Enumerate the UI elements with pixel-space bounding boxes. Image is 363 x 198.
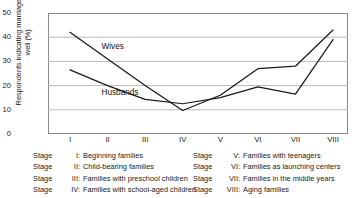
legend-stage-description: Child-bearing families [83,161,154,172]
legend-stage-numeral: VI: [218,161,243,172]
y-tick-label: 40 [0,33,11,41]
legend-stage-description: Families with teenagers [243,150,321,161]
legend-stage-numeral: III: [58,173,83,184]
legend-stage-word: Stage [33,150,58,161]
legend-stage-word: Stage [193,161,218,172]
x-tick-label: III [130,136,160,144]
legend-row: StageVI:Families as launching centers [193,161,340,172]
legend-stage-description: Families with preschool children [83,173,188,184]
legend-column-left: StageI:Beginning familiesStageII:Child-b… [33,150,196,195]
y-axis-title: Respondents indicating marriage going we… [14,0,32,112]
legend-stage-description: Families with school-aged children [83,184,196,195]
chart-figure: Respondents indicating marriage going we… [0,0,363,198]
legend-stage-word: Stage [33,161,58,172]
legend-stage-description: Beginning families [83,150,143,161]
x-tick-label: VII [280,136,310,144]
legend-row: StageV:Families with teenagers [193,150,340,161]
x-tick-label: VIII [318,136,348,144]
plot-area [48,13,348,134]
legend-column-right: StageV:Families with teenagersStageVI:Fa… [193,150,340,195]
legend-stage-numeral: V: [218,150,243,161]
y-tick-label: 50 [0,9,11,17]
legend-stage-description: Families as launching centers [243,161,340,172]
legend-stage-numeral: I: [58,150,83,161]
x-tick-label: VI [243,136,273,144]
legend-stage-numeral: VIII: [218,184,243,195]
y-tick-label: 0 [0,130,11,138]
legend: StageI:Beginning familiesStageII:Child-b… [0,150,363,198]
legend-stage-numeral: II: [58,161,83,172]
legend-row: StageIII:Families with preschool childre… [33,173,196,184]
x-tick-label: II [93,136,123,144]
legend-stage-numeral: IV: [58,184,83,195]
legend-stage-word: Stage [193,173,218,184]
legend-stage-numeral: VII: [218,173,243,184]
y-tick-label: 20 [0,82,11,90]
series-label-wives: Wives [102,43,124,51]
legend-row: StageVII:Families in the middle years [193,173,340,184]
legend-stage-word: Stage [33,184,58,195]
x-tick-label: IV [168,136,198,144]
y-tick-label: 30 [0,57,11,65]
legend-stage-word: Stage [193,184,218,195]
series-label-husbands: Husbands [102,89,139,97]
legend-stage-description: Families in the middle years [243,173,335,184]
legend-row: StageVIII:Aging families [193,184,340,195]
legend-stage-description: Aging families [243,184,289,195]
legend-stage-word: Stage [193,150,218,161]
legend-row: StageIV:Families with school-aged childr… [33,184,196,195]
x-tick-label: I [55,136,85,144]
legend-row: StageI:Beginning families [33,150,196,161]
x-tick-label: V [205,136,235,144]
y-tick-label: 10 [0,106,11,114]
legend-row: StageII:Child-bearing families [33,161,196,172]
legend-stage-word: Stage [33,173,58,184]
chart-lines [48,13,348,134]
